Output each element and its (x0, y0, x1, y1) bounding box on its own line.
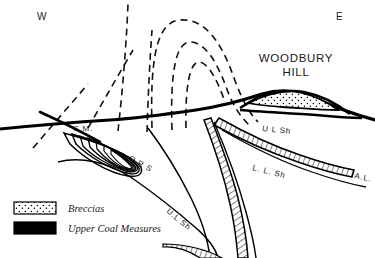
west-orientation-label: W (37, 11, 47, 22)
legend-swatch-breccias (14, 202, 56, 214)
strata-label-lower-ludlow-shale: L. L. Sh (252, 163, 287, 180)
geological-cross-section-figure: W E WOODBURY HILL C.M. O R S U.L Sh U L … (0, 0, 375, 258)
cross-section-drawing: W E WOODBURY HILL C.M. O R S U.L Sh U L … (0, 0, 375, 258)
hill-title-line2: HILL (282, 66, 309, 78)
strata-label-upper-ludlow-shale-core: U.L Sh (165, 207, 193, 233)
strata-label-coal-measures: C.M. (73, 124, 93, 133)
dashed-anticline-inner (172, 42, 250, 130)
dashed-limb-3 (118, 4, 128, 131)
ors-core-limb-west (148, 128, 210, 258)
strata-label-aymestry-limestone: A.L. (354, 171, 373, 183)
dashed-anticline-outer (152, 20, 258, 128)
legend-swatch-upper-coal-measures (14, 222, 56, 234)
legend-label-upper-coal-measures: Upper Coal Measures (68, 223, 161, 234)
hill-title-line1: WOODBURY (259, 52, 333, 64)
legend: Breccias Upper Coal Measures (14, 202, 161, 234)
legend-label-breccias: Breccias (68, 203, 104, 214)
strata-label-upper-ludlow-shale-east: U L Sh (262, 124, 292, 136)
east-orientation-label: E (336, 11, 343, 22)
dashed-limb-2 (88, 50, 133, 128)
